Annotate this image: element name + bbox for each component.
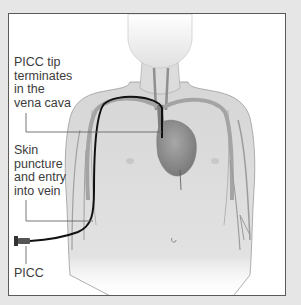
label-skin-puncture: Skin puncture and entry into vein	[14, 144, 66, 198]
picc-connector-icon	[14, 236, 30, 246]
label-picc: PICC	[14, 267, 44, 281]
label-picc-tip: PICC tip terminates in the vena cava	[14, 56, 72, 110]
head-shape	[128, 14, 192, 68]
